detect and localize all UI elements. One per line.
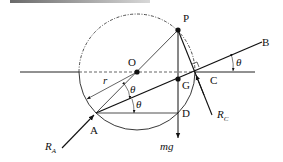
label-theta-3: θ [236, 56, 242, 68]
point-G-dot [175, 76, 180, 81]
point-O-dot [134, 69, 139, 74]
label-theta-2: θ [136, 98, 142, 110]
physics-diagram: P O G C B A D r θ θ θ mg RA RC [0, 0, 283, 162]
label-C: C [210, 74, 217, 86]
label-G: G [182, 79, 190, 91]
label-D: D [182, 107, 190, 119]
label-RC: RC [216, 108, 229, 123]
label-RA: RA [44, 140, 57, 155]
label-O: O [128, 56, 136, 68]
label-r: r [103, 74, 108, 86]
angle-arc-3 [232, 57, 233, 71]
label-theta-1: θ [130, 83, 136, 95]
label-A: A [90, 124, 98, 136]
angle-arc-2 [132, 99, 134, 113]
reaction-C-arrow [196, 75, 204, 95]
label-P: P [183, 12, 189, 24]
label-mg: mg [160, 140, 174, 152]
point-P-dot [175, 27, 180, 32]
label-B: B [262, 36, 269, 48]
